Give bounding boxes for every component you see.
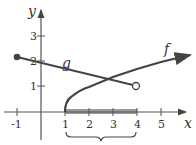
y-tick-label: 3 xyxy=(30,30,37,43)
x-tick-label: 5 xyxy=(158,118,165,131)
open-endpoint-g xyxy=(133,83,140,90)
chart: -1 1 2 3 4 5 1 2 3 x y g f xyxy=(0,0,196,145)
x-axis-label: x xyxy=(184,115,192,131)
brace xyxy=(66,132,136,141)
y-axis-label: y xyxy=(27,3,37,19)
x-tick-label: 2 xyxy=(86,118,93,131)
label-g: g xyxy=(62,55,71,71)
x-tick-label: 1 xyxy=(62,118,69,131)
x-tick-label: 3 xyxy=(110,118,117,131)
label-f: f xyxy=(163,41,172,57)
y-tick-label: 1 xyxy=(30,80,37,93)
x-tick-label: 4 xyxy=(134,118,141,131)
closed-endpoint-g xyxy=(14,54,21,61)
x-tick-label: -1 xyxy=(11,118,22,131)
